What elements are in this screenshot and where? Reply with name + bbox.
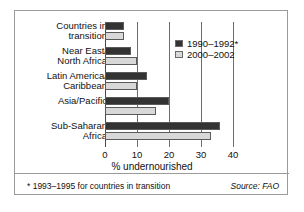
chart-legend: 1990–1992* 2000–2002 [175, 38, 238, 60]
bar [105, 72, 147, 80]
bar [105, 57, 137, 65]
category-label-asia-pacific: Asia/Pacific [17, 96, 107, 107]
x-tick-label-20: 20 [164, 149, 175, 160]
x-tick-label-40: 40 [228, 149, 239, 160]
chart-figure: Countries in transition Near East/ North… [14, 10, 288, 195]
bar [105, 82, 137, 90]
x-tick-label-30: 30 [196, 149, 207, 160]
x-tick-label-10: 10 [132, 149, 143, 160]
legend-label-2000-2002: 2000–2002 [187, 49, 235, 60]
footnote-text: * 1993–1995 for countries in transition [27, 181, 170, 191]
bar [105, 32, 124, 40]
bar [105, 107, 156, 115]
legend-item-2000-2002: 2000–2002 [175, 49, 238, 60]
bar [105, 122, 220, 130]
bar-group [105, 72, 233, 97]
source-text: Source: FAO [231, 181, 280, 191]
category-label-latin-america-caribbean: Latin America/ Caribbean [17, 71, 107, 92]
bar [105, 22, 124, 30]
bar [105, 97, 169, 105]
footnote-row: * 1993–1995 for countries in transition … [15, 177, 289, 194]
category-label-sub-saharan-africa: Sub-Saharan Africa [17, 121, 107, 142]
legend-label-1990-1992: 1990–1992* [187, 38, 238, 49]
bar-group [105, 122, 233, 147]
bar-group [105, 97, 233, 122]
legend-swatch-icon-2000-2002 [175, 51, 183, 58]
category-label-near-east-north-africa: Near East/ North Africa [17, 46, 107, 67]
plot-area: Countries in transition Near East/ North… [15, 11, 289, 161]
bar [105, 132, 211, 140]
category-label-countries-in-transition: Countries in transition [17, 21, 107, 42]
x-tick-label-0: 0 [102, 149, 107, 160]
bar [105, 47, 131, 55]
footnote-separator [15, 173, 289, 174]
legend-swatch-icon-1990-1992 [175, 40, 183, 47]
legend-item-1990-1992: 1990–1992* [175, 38, 238, 49]
x-axis-title: % undernourished [15, 161, 289, 172]
